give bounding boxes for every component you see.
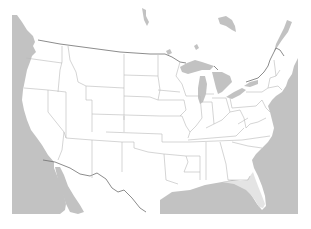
us-outline-map [0,0,311,229]
